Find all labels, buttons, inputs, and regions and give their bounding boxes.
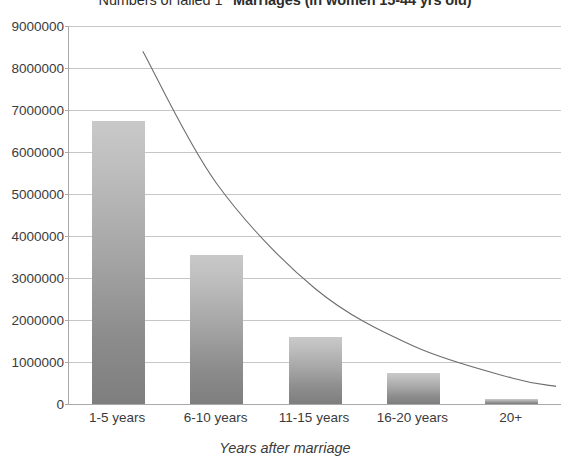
y-axis-tick: [65, 194, 69, 195]
chart-container: Numbers of failed 1st Marriages (in wome…: [0, 0, 570, 469]
y-axis-tick: [65, 152, 69, 153]
y-axis-label: 5000000: [2, 187, 64, 202]
y-axis-label: 3000000: [2, 271, 64, 286]
chart-title-superscript: st: [222, 0, 229, 1]
y-axis-labels: 0100000020000003000000400000050000006000…: [0, 26, 64, 404]
y-axis-tick: [65, 236, 69, 237]
x-axis-label: 20+: [499, 410, 522, 425]
plot-area: [68, 26, 561, 404]
x-axis-labels: 1-5 years6-10 years11-15 years16-20 year…: [68, 410, 560, 432]
y-axis-tick: [65, 278, 69, 279]
bars-layer: [69, 26, 561, 404]
chart-title-lead: Numbers of failed 1: [99, 0, 223, 8]
chart-title-bold: Marriages (in women 15-44 yrs old): [233, 0, 471, 8]
y-axis-label: 8000000: [2, 61, 64, 76]
y-axis-label: 9000000: [2, 19, 64, 34]
y-axis-label: 1000000: [2, 355, 64, 370]
x-axis-line: [69, 404, 561, 405]
chart-title: Numbers of failed 1st Marriages (in wome…: [0, 0, 570, 8]
y-axis-label: 4000000: [2, 229, 64, 244]
x-axis-label: 16-20 years: [377, 410, 448, 425]
y-axis-label: 0: [2, 397, 64, 412]
y-axis-tick: [65, 26, 69, 27]
y-axis-tick: [65, 362, 69, 363]
x-axis-label: 6-10 years: [184, 410, 248, 425]
x-axis-label: 11-15 years: [279, 410, 349, 425]
x-axis-label: 1-5 years: [89, 410, 145, 425]
x-axis-title: Years after marriage: [0, 440, 570, 456]
bar: [92, 121, 145, 405]
y-axis-label: 7000000: [2, 103, 64, 118]
y-axis-tick: [65, 320, 69, 321]
y-axis-label: 6000000: [2, 145, 64, 160]
y-axis-tick: [65, 68, 69, 69]
bar: [387, 373, 440, 404]
y-axis-label: 2000000: [2, 313, 64, 328]
bar: [190, 255, 243, 404]
y-axis-tick: [65, 110, 69, 111]
bar: [485, 399, 538, 404]
bar: [289, 337, 342, 404]
y-axis-tick: [65, 404, 69, 405]
